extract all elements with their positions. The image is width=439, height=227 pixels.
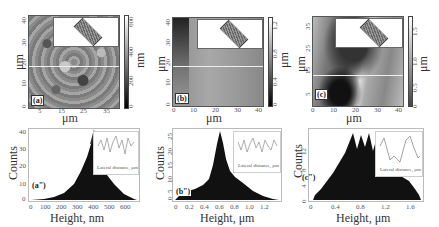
x-tick: 35 bbox=[103, 107, 110, 115]
x-axis-label: μm bbox=[62, 111, 78, 126]
x-tick: 0.2 bbox=[185, 203, 194, 211]
profile-line bbox=[29, 66, 119, 67]
surface-icon bbox=[360, 19, 389, 48]
x-tick: 1.0 bbox=[245, 203, 254, 211]
x-tick: 0.8 bbox=[230, 203, 239, 211]
colorbar-a bbox=[124, 15, 129, 109]
y-tick: 25 bbox=[304, 45, 312, 52]
cbar-tick: 0 bbox=[271, 103, 279, 107]
y-axis-label: Counts bbox=[6, 146, 21, 180]
y-tick: 35 bbox=[304, 23, 312, 30]
x-tick: 600 bbox=[120, 203, 131, 211]
x-tick: 0.4 bbox=[200, 203, 209, 211]
x-tick: 1.2 bbox=[260, 203, 269, 211]
x-axis-label: Height, nm bbox=[50, 211, 104, 226]
x-tick: 400 bbox=[88, 203, 99, 211]
y-tick: 4 bbox=[300, 185, 308, 189]
3d-surface-inset-b bbox=[197, 19, 263, 49]
histogram-b: Lateral distance, μm (b") bbox=[172, 128, 282, 202]
y-tick: 30 bbox=[20, 39, 28, 46]
x-tick: 40 bbox=[255, 106, 262, 114]
afm-image-a: (a) bbox=[28, 15, 120, 109]
surface-icon bbox=[74, 18, 103, 47]
x-tick: 30 bbox=[374, 106, 381, 114]
cbar-tick: 600 bbox=[127, 17, 135, 28]
y-tick: 0 bbox=[166, 197, 174, 201]
x-axis-label: μm bbox=[206, 111, 222, 126]
x-tick: 200 bbox=[56, 203, 67, 211]
panel-label-c: (c) bbox=[315, 89, 328, 100]
cbar-tick: 0.4 bbox=[271, 77, 279, 86]
afm-image-b: (b) bbox=[172, 17, 264, 107]
colorbar-label: nm bbox=[133, 53, 148, 68]
y-axis-label: Counts bbox=[153, 146, 168, 180]
profile-line bbox=[173, 66, 263, 67]
y-tick: 40 bbox=[20, 17, 28, 24]
cbar-tick: 200 bbox=[127, 76, 135, 87]
cbar-tick: 0.5 bbox=[411, 83, 419, 92]
x-tick: 0 bbox=[311, 106, 315, 114]
x-tick: 1.6 bbox=[406, 203, 415, 211]
y-axis-label: μm bbox=[154, 56, 169, 72]
x-tick: 10 bbox=[330, 106, 337, 114]
panel-label-a2: (a") bbox=[31, 181, 47, 190]
y-axis-label: μm bbox=[294, 56, 309, 72]
line-profile-inset-c: Lateral distance, μm bbox=[375, 131, 423, 177]
x-axis-label: μm bbox=[346, 111, 362, 126]
line-profile-inset-b: Lateral distance, μm bbox=[233, 131, 281, 173]
x-axis-label: Height, μm bbox=[336, 211, 390, 226]
x-axis-label: Height, μm bbox=[200, 211, 254, 226]
cbar-tick: 0 bbox=[127, 105, 135, 109]
x-tick: 0 bbox=[174, 203, 178, 211]
x-tick: 0 bbox=[29, 203, 33, 211]
panel-label-b: (b) bbox=[175, 93, 189, 104]
y-tick: 5 bbox=[304, 93, 312, 97]
y-tick: 0 bbox=[20, 105, 28, 109]
y-axis-label: Counts bbox=[291, 144, 306, 178]
y-tick: 10 bbox=[20, 80, 28, 87]
x-tick: 0.6 bbox=[215, 203, 224, 211]
y-axis-label: μm bbox=[12, 54, 27, 70]
3d-surface-inset-c bbox=[335, 18, 403, 48]
x-tick: 5 bbox=[38, 107, 42, 115]
panel-label-a: (a) bbox=[31, 95, 44, 106]
y-tick: 10 bbox=[19, 180, 26, 188]
x-tick: 500 bbox=[104, 203, 115, 211]
afm-image-c: (c) bbox=[312, 16, 404, 107]
x-tick: 0.4 bbox=[331, 203, 340, 211]
colorbar-label: μm bbox=[416, 56, 431, 72]
colorbar-b bbox=[268, 17, 273, 107]
x-tick: 0 bbox=[309, 203, 313, 211]
x-tick: 25 bbox=[80, 107, 87, 115]
3d-surface-inset-a bbox=[53, 17, 119, 47]
x-tick: 0.8 bbox=[356, 203, 365, 211]
y-tick: 0 bbox=[22, 195, 26, 203]
y-tick: 30 bbox=[164, 39, 172, 46]
panel-label-b2: (b") bbox=[175, 187, 191, 196]
colorbar-label: μm bbox=[277, 52, 292, 68]
profile-line bbox=[313, 75, 403, 76]
y-tick: 10 bbox=[164, 79, 172, 86]
cbar-tick: 0 bbox=[411, 105, 419, 109]
y-tick: 0 bbox=[300, 200, 308, 204]
surface-icon bbox=[220, 20, 249, 49]
inset-xlabel: Lateral distance, μm bbox=[97, 165, 138, 170]
histogram-a: Lateral distance, μm (a") bbox=[28, 128, 140, 202]
y-tick: 25 bbox=[166, 133, 174, 140]
line-profile-inset-a: Lateral distance, μm bbox=[93, 131, 139, 175]
y-tick: 40 bbox=[19, 128, 26, 136]
x-tick: 1.2 bbox=[381, 203, 390, 211]
cbar-tick: 1.2 bbox=[271, 21, 279, 30]
x-tick: 10 bbox=[190, 106, 197, 114]
y-tick: 5 bbox=[166, 190, 174, 194]
y-tick: 40 bbox=[164, 19, 172, 26]
x-tick: 0 bbox=[172, 106, 176, 114]
x-tick: 40 bbox=[395, 106, 402, 114]
inset-xlabel: Lateral distance, μm bbox=[238, 163, 279, 168]
x-tick: 300 bbox=[72, 203, 83, 211]
x-tick: 30 bbox=[234, 106, 241, 114]
cbar-tick: 1.5 bbox=[411, 27, 419, 36]
histogram-c: Lateral distance, μm (c") bbox=[308, 128, 424, 202]
inset-xlabel: Lateral distance, μm bbox=[380, 167, 421, 172]
x-tick: 100 bbox=[40, 203, 51, 211]
